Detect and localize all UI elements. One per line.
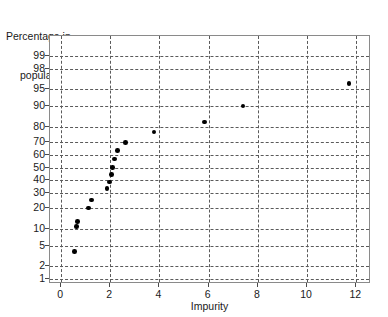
data-point — [202, 120, 207, 125]
y-axis-tick-label: 70 — [3, 136, 45, 147]
data-point — [109, 172, 114, 177]
x-axis-tick-mark — [257, 283, 258, 287]
data-point — [112, 157, 117, 162]
x-axis-tick-mark — [60, 283, 61, 287]
data-point — [107, 180, 112, 185]
y-axis-tick-label: 80 — [3, 121, 45, 132]
gridline-vertical — [61, 36, 62, 282]
y-axis-tick-label: 30 — [3, 186, 45, 197]
x-axis-tick-mark — [208, 283, 209, 287]
y-axis-tick-label: 99 — [3, 50, 45, 61]
gridline-vertical — [356, 36, 357, 282]
x-axis-tick-label: 10 — [286, 289, 326, 300]
data-point — [241, 104, 246, 109]
probability-plot: Percentage in population 125102030405060… — [0, 0, 388, 317]
x-axis-tick-mark — [306, 283, 307, 287]
gridline-vertical — [258, 36, 259, 282]
plot-surface — [50, 36, 369, 282]
x-axis-tick-label: 0 — [40, 289, 80, 300]
y-axis-tick-label: 98 — [3, 63, 45, 74]
x-axis-tick-label: 2 — [89, 289, 129, 300]
data-point — [72, 249, 77, 254]
data-point — [89, 198, 94, 203]
x-axis-tick-mark — [109, 283, 110, 287]
gridline-vertical — [307, 36, 308, 282]
y-axis-tick-label: 40 — [3, 173, 45, 184]
x-axis-tick-label: 6 — [188, 289, 228, 300]
y-axis-tick-label: 1 — [3, 273, 45, 284]
x-axis-tick-label: 8 — [237, 289, 277, 300]
gridline-vertical — [159, 36, 160, 282]
data-point — [347, 81, 352, 86]
y-axis-tick-label: 90 — [3, 100, 45, 111]
data-point — [75, 219, 80, 224]
y-axis-tick-label: 60 — [3, 149, 45, 160]
y-axis-tick-label: 20 — [3, 202, 45, 213]
gridline-vertical — [110, 36, 111, 282]
x-axis-title: Impurity — [49, 300, 370, 312]
plot-frame — [49, 35, 370, 283]
y-axis-tick-label: 5 — [3, 240, 45, 251]
x-axis-tick-mark — [355, 283, 356, 287]
data-point — [74, 224, 79, 229]
data-point — [86, 206, 91, 211]
data-point — [115, 148, 120, 153]
data-point — [123, 140, 128, 145]
y-axis-tick-label: 50 — [3, 161, 45, 172]
y-axis-tick-label: 2 — [3, 260, 45, 271]
data-point — [152, 130, 157, 135]
data-point — [105, 186, 110, 191]
y-axis-tick-label: 10 — [3, 223, 45, 234]
x-axis-tick-mark — [158, 283, 159, 287]
y-axis-tick-label: 95 — [3, 83, 45, 94]
gridline-vertical — [209, 36, 210, 282]
data-point — [110, 165, 115, 170]
y-axis-tick-layer: 125102030405060708090959899 — [0, 35, 45, 283]
x-axis-tick-label: 12 — [335, 289, 375, 300]
x-axis-tick-label: 4 — [138, 289, 178, 300]
